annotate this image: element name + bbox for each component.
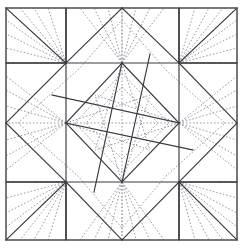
crease-pattern-canvas xyxy=(0,0,243,248)
crease-pattern-figure xyxy=(0,0,243,248)
